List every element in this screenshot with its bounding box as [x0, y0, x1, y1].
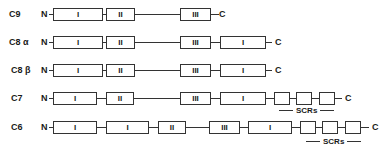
c-terminus: C — [372, 122, 379, 132]
domain-box-i: I — [53, 36, 103, 49]
domain-box-iii: III — [180, 64, 211, 77]
scr-label-text: SCRs — [296, 106, 317, 115]
domain-box-ii: II — [106, 8, 135, 21]
domain-box-ii: II — [106, 64, 135, 77]
n-terminus: N — [41, 65, 48, 75]
domain-box-i: I — [220, 92, 266, 105]
scr-box — [274, 92, 290, 105]
n-terminus: N — [41, 37, 48, 47]
domain-box-i: I — [53, 121, 97, 134]
scr-box — [300, 121, 316, 134]
domain-box-ii: II — [106, 36, 135, 49]
n-terminus: N — [41, 93, 48, 103]
scr-box — [322, 121, 338, 134]
domain-box-iii: III — [180, 8, 211, 21]
domain-box-i: I — [53, 92, 97, 105]
domain-box-ii: II — [158, 121, 186, 134]
scr-bracket-label: SCRs — [276, 106, 337, 115]
row-label: C6 — [11, 122, 23, 132]
domain-box-i: I — [248, 121, 292, 134]
n-terminus: N — [41, 9, 48, 19]
domain-box-i: I — [220, 36, 266, 49]
scr-bracket-label: SCRs — [303, 137, 364, 146]
domain-box-i: I — [53, 64, 103, 77]
row-label: C8 α — [9, 37, 29, 47]
domain-box-iii: III — [180, 36, 211, 49]
domain-box-iii: III — [209, 121, 240, 134]
domain-box-ii: II — [106, 92, 134, 105]
row-label: C8 β — [11, 65, 31, 75]
domain-box-i: I — [106, 121, 149, 134]
c-terminus: C — [275, 37, 282, 47]
row-label: C9 — [9, 9, 21, 19]
n-terminus: N — [41, 122, 48, 132]
scr-box — [319, 92, 335, 105]
domain-box-i: I — [53, 8, 103, 21]
domain-box-iii: III — [180, 92, 211, 105]
c-terminus: C — [345, 93, 352, 103]
row-label: C7 — [11, 93, 23, 103]
domain-box-i: I — [220, 64, 266, 77]
scr-box — [345, 121, 361, 134]
scr-box — [296, 92, 312, 105]
scr-label-text: SCRs — [323, 137, 344, 146]
c-terminus: C — [219, 9, 226, 19]
c-terminus: C — [275, 65, 282, 75]
